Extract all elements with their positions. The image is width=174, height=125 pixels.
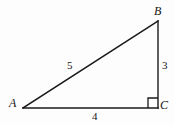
right-angle-marker-icon [148, 98, 158, 108]
geometry-figure: A B C 5 3 4 [0, 0, 174, 125]
vertex-label-b: B [154, 5, 161, 17]
right-triangle-drawing [0, 0, 174, 125]
side-ab-hypotenuse-line [23, 21, 158, 108]
vertex-label-c: C [160, 99, 168, 111]
side-length-label-horizontal: 4 [92, 111, 98, 122]
side-length-label-vertical: 3 [162, 60, 168, 71]
vertex-label-a: A [9, 97, 16, 109]
side-length-label-hypotenuse: 5 [67, 60, 73, 71]
